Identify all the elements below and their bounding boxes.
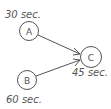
node-c: C <box>81 47 102 68</box>
node-c-duration: 45 sec. <box>72 67 108 78</box>
edge-a-to-c <box>38 35 80 55</box>
node-b-label: B <box>24 76 30 86</box>
arrowhead-icon <box>73 59 80 60</box>
node-b-duration: 60 sec. <box>6 94 42 105</box>
node-a-duration: 30 sec. <box>5 9 41 20</box>
node-c-label: C <box>88 53 94 63</box>
node-a-label: A <box>26 27 33 37</box>
diagram-canvas: A 30 sec. B 60 sec. C 45 sec. <box>0 0 111 109</box>
node-b: B <box>18 71 37 90</box>
node-a: A <box>20 22 39 41</box>
